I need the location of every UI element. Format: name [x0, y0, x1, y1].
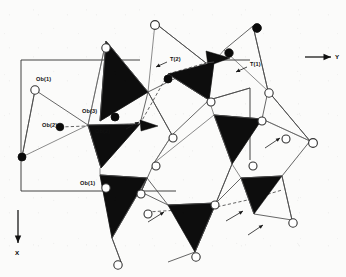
oxygen-atom-open — [102, 44, 110, 52]
label-ob2-right: Ob(2) — [95, 128, 110, 134]
bond-line — [254, 214, 292, 220]
tetrahedron-face — [168, 203, 216, 252]
cation-atom-filled — [253, 24, 262, 33]
dashed-bond-line — [140, 74, 168, 124]
cation-atom-filled — [18, 153, 26, 161]
cation-atom-filled — [111, 113, 119, 121]
label-pointer-arrowhead — [276, 138, 280, 142]
tetrahedron-face — [140, 120, 158, 131]
oxygen-atom-open — [282, 135, 290, 143]
label-ob1-left: Ob(1) — [36, 76, 51, 82]
atom-group — [18, 21, 317, 270]
label-ob1-lower: Ob(1) — [80, 180, 95, 186]
bond-line — [253, 26, 268, 91]
bond-line — [232, 164, 241, 178]
bond-line — [22, 90, 35, 157]
cation-atom-filled — [164, 75, 172, 83]
oxygen-atom-open — [137, 190, 145, 198]
label-t1: T(1) — [250, 61, 261, 67]
bond-line — [268, 91, 310, 141]
oxygen-atom-open — [152, 162, 160, 170]
oxygen-atom-open — [211, 201, 219, 209]
oxygen-atom-open — [144, 210, 152, 218]
bond-line — [282, 176, 292, 220]
oxygen-atom-open — [207, 98, 215, 106]
oxygen-atom-open — [31, 86, 39, 94]
bond-line — [209, 88, 250, 100]
oxygen-atom-open — [114, 261, 122, 269]
oxygen-atom-open — [249, 162, 257, 170]
oxygen-atom-open — [309, 139, 318, 148]
bond-line — [154, 115, 214, 163]
tetrahedron-face — [100, 41, 148, 121]
bond-line — [147, 178, 168, 205]
axis-y-arrowhead — [324, 54, 332, 60]
label-t2: T(2) — [170, 56, 181, 62]
tetrahedra-group — [88, 41, 282, 252]
bond-line — [168, 252, 195, 262]
bond-line — [35, 90, 88, 125]
oxygen-atom-open — [265, 89, 273, 97]
tetrahedron-face — [214, 115, 262, 164]
bond-overlay-group — [22, 23, 310, 262]
label-ob2-left: Ob(2) — [42, 122, 57, 128]
oxygen-atom-open — [102, 184, 110, 192]
bond-line — [216, 164, 232, 203]
bond-line — [148, 23, 155, 92]
bond-line — [282, 141, 310, 176]
axis-y-label: Y — [335, 53, 340, 60]
axis-x-arrowhead — [15, 236, 21, 244]
oxygen-atom-open — [151, 21, 160, 30]
cation-atom-filled — [225, 49, 233, 57]
bond-line — [148, 92, 172, 135]
bond-network-group — [22, 23, 310, 262]
cation-atom-filled — [56, 123, 64, 131]
bond-line — [172, 100, 209, 135]
bond-line — [216, 178, 241, 203]
structure-canvas: YX Ob(1)Ob(2)Ob(3)Ob(2)Ob(1)T(2)T(1) — [0, 0, 346, 277]
oxygen-atom-open — [289, 219, 297, 227]
label-pointer-arrowhead — [160, 212, 164, 216]
bond-line — [140, 92, 148, 124]
bond-line — [224, 26, 253, 50]
label-ob3: Ob(3) — [82, 108, 97, 114]
bond-line — [112, 238, 121, 262]
axis-x-label: X — [15, 249, 20, 256]
crystal-structure-figure: YX Ob(1)Ob(2)Ob(3)Ob(2)Ob(1)T(2)T(1) — [0, 0, 346, 277]
label-pointer-arrowhead — [259, 225, 263, 229]
oxygen-atom-open — [192, 253, 200, 261]
bond-line — [22, 125, 88, 157]
oxygen-atom-open — [169, 134, 177, 142]
oxygen-atom-open — [258, 117, 266, 125]
